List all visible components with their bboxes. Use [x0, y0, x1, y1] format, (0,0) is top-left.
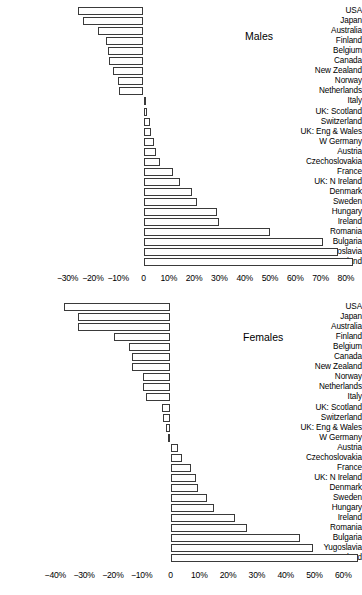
bar [114, 333, 170, 341]
bar [98, 27, 144, 35]
bar [108, 47, 143, 55]
chart-row: Netherlands [0, 86, 362, 96]
category-label: UK: Eng & Wales [262, 423, 362, 433]
bar [171, 484, 198, 492]
chart-row: Australia [0, 26, 362, 36]
chart-row: Switzerland [0, 117, 362, 127]
bar [129, 343, 171, 351]
category-label: W Germany [262, 433, 362, 443]
chart-row: Romania [0, 227, 362, 237]
bar [144, 238, 324, 246]
category-label: Czechoslovakia [262, 157, 362, 167]
category-label: Norway [262, 372, 362, 382]
x-axis-tick-label: 10% [191, 568, 208, 582]
chart-row: Italy [0, 392, 362, 402]
bar [64, 303, 171, 311]
chart-page: USAJapanAustraliaFinlandBelgiumCanadaNew… [0, 0, 362, 595]
chart-row: USA [0, 6, 362, 16]
chart-row: Hungary [0, 503, 362, 513]
category-label: Belgium [262, 342, 362, 352]
category-label: Netherlands [262, 382, 362, 392]
x-axis-tick-label: −10% [107, 271, 128, 285]
bar [171, 504, 214, 512]
chart-row: Austria [0, 443, 362, 453]
x-axis-tick-label: 40% [277, 568, 294, 582]
chart-row: Poland [0, 553, 362, 563]
category-label: Austria [262, 147, 362, 157]
chart-row: USA [0, 302, 362, 312]
bar [144, 97, 147, 105]
bar [144, 168, 173, 176]
category-label: Norway [262, 76, 362, 86]
category-label: Italy [262, 96, 362, 106]
x-axis-females: −40%−30%−20%−10%010%20%30%40%50%60% [0, 568, 362, 582]
x-axis-tick-label: 80% [338, 271, 355, 285]
chart-row: Finland [0, 332, 362, 342]
chart-row: UK: N Ireland [0, 473, 362, 483]
bar [171, 444, 178, 452]
category-label: Romania [262, 523, 362, 533]
chart-row: Czechoslovakia [0, 157, 362, 167]
category-label: France [262, 167, 362, 177]
bar [171, 514, 236, 522]
x-axis-tick-label: 20% [186, 271, 203, 285]
category-label: UK: Eng & Wales [262, 127, 362, 137]
bar [144, 208, 217, 216]
chart-row: France [0, 167, 362, 177]
category-label: Ireland [262, 217, 362, 227]
chart-row: Hungary [0, 207, 362, 217]
category-label: Denmark [262, 187, 362, 197]
panel-title-males: Males [245, 30, 273, 42]
bar [143, 373, 170, 381]
bar [171, 464, 191, 472]
category-label: UK: N Ireland [262, 473, 362, 483]
bar [144, 178, 181, 186]
chart-row: W Germany [0, 137, 362, 147]
chart-row: New Zealand [0, 66, 362, 76]
bar [144, 258, 354, 266]
bar [83, 17, 144, 25]
chart-row: Ireland [0, 513, 362, 523]
category-label: Finland [262, 36, 362, 46]
category-label: Netherlands [262, 86, 362, 96]
chart-row: Canada [0, 352, 362, 362]
bar [171, 454, 183, 462]
bar [144, 248, 339, 256]
bar [144, 198, 197, 206]
category-label: W Germany [262, 137, 362, 147]
chart-row: Netherlands [0, 382, 362, 392]
chart-row: Switzerland [0, 413, 362, 423]
chart-row: Italy [0, 96, 362, 106]
category-label: Italy [262, 392, 362, 402]
x-axis-tick-label: −20% [102, 568, 123, 582]
chart-row: Australia [0, 322, 362, 332]
category-label: UK: Scotland [262, 403, 362, 413]
x-axis-tick-label: 40% [236, 271, 253, 285]
chart-row: UK: Scotland [0, 403, 362, 413]
bar [144, 148, 157, 156]
bar [113, 67, 143, 75]
category-label: Switzerland [262, 413, 362, 423]
chart-row: Romania [0, 523, 362, 533]
bar [171, 474, 197, 482]
x-axis-tick-label: 50% [306, 568, 323, 582]
chart-row: UK: Scotland [0, 107, 362, 117]
category-label: New Zealand [262, 66, 362, 76]
category-label: Hungary [262, 207, 362, 217]
chart-row: France [0, 463, 362, 473]
chart-row: Belgium [0, 46, 362, 56]
bar [171, 554, 358, 562]
category-label: Japan [262, 312, 362, 322]
x-axis-tick-label: −40% [45, 568, 66, 582]
bar [143, 383, 170, 391]
category-label: USA [262, 6, 362, 16]
panel-title-females: Females [243, 331, 283, 343]
chart-row: Norway [0, 76, 362, 86]
chart-row: Canada [0, 56, 362, 66]
category-label: New Zealand [262, 362, 362, 372]
bar [144, 138, 154, 146]
category-label: USA [262, 302, 362, 312]
x-axis-tick-label: −20% [82, 271, 103, 285]
bar [162, 404, 171, 412]
category-label: Japan [262, 16, 362, 26]
